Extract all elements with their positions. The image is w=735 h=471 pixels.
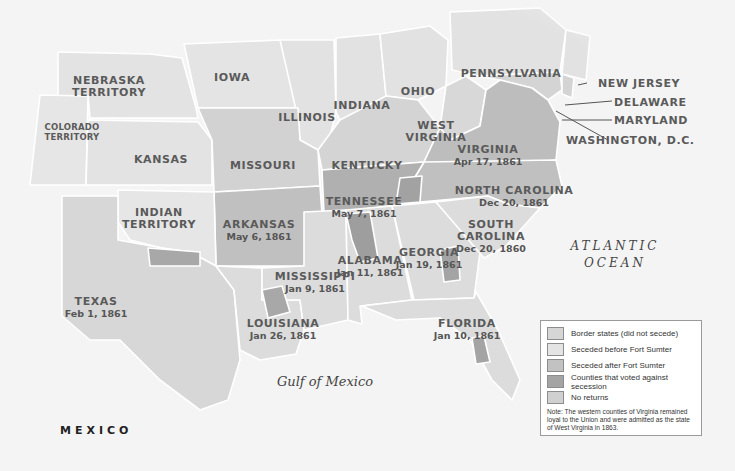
label-pennsylvania: PENNSYLVANIA <box>461 68 562 80</box>
label-text: TERRITORY <box>45 132 100 142</box>
legend-label: Seceded before Fort Sumter <box>571 345 672 354</box>
label-north-carolina: NORTH CAROLINADec 20, 1861 <box>455 185 574 209</box>
secession-date: Feb 1, 1861 <box>65 308 128 320</box>
state-name: MISSISSIPPI <box>275 270 356 283</box>
label-tennessee: TENNESSEEMay 7, 1861 <box>326 196 403 220</box>
label-virginia: VIRGINIAApr 17, 1861 <box>454 144 523 168</box>
state-name: FLORIDA <box>438 317 496 330</box>
legend-item-no-returns: No returns <box>547 390 695 405</box>
label-arkansas: ARKANSASMay 6, 1861 <box>223 219 295 243</box>
state-name: NORTH CAROLINA <box>455 184 574 197</box>
secession-date: Apr 17, 1861 <box>454 156 523 168</box>
label-texas: TEXASFeb 1, 1861 <box>65 296 128 320</box>
label-west-virginia: WESTVIRGINIA <box>406 120 467 144</box>
state-name: CAROLINA <box>457 230 525 243</box>
secession-date: Dec 20, 1860 <box>456 243 526 255</box>
legend-swatch <box>547 343 564 356</box>
state-name: ARKANSAS <box>223 218 295 231</box>
label-atlantic-ocean: ATLANTICOCEAN <box>570 238 659 272</box>
legend-item-seceded-before: Seceded before Fort Sumter <box>547 342 695 357</box>
label-new-jersey: NEW JERSEY <box>598 78 680 90</box>
map-legend: Border states (did not secede) Seceded b… <box>540 320 702 436</box>
label-kansas: KANSAS <box>134 154 188 166</box>
legend-label: Seceded after Fort Sumter <box>571 361 665 370</box>
label-mexico: MEXICO <box>60 424 132 437</box>
label-text: TERRITORY <box>122 218 196 231</box>
label-text: OCEAN <box>584 256 646 270</box>
label-indian-territory: INDIANTERRITORY <box>122 207 196 231</box>
label-mississippi: MISSISSIPPIJan 9, 1861 <box>275 271 356 295</box>
label-illinois: ILLINOIS <box>278 112 336 124</box>
state-name: GEORGIA <box>399 246 459 259</box>
secession-date: Jan 9, 1861 <box>275 283 356 295</box>
legend-item-seceded-after: Seceded after Fort Sumter <box>547 358 695 373</box>
legend-label: Border states (did not secede) <box>571 329 678 338</box>
label-delaware: DELAWARE <box>614 97 687 109</box>
label-text: ATLANTIC <box>570 239 659 253</box>
legend-item-border-states: Border states (did not secede) <box>547 326 695 341</box>
secession-date: Jan 19, 1861 <box>396 259 463 271</box>
label-nebraska: NEBRASKATERRITORY <box>72 75 146 99</box>
legend-label: Counties that voted against secession <box>571 373 695 391</box>
legend-swatch <box>547 391 564 404</box>
secession-date: Jan 10, 1861 <box>434 330 501 342</box>
secession-date: Dec 20, 1861 <box>455 197 574 209</box>
state-name: ALABAMA <box>338 254 403 267</box>
secession-date: May 6, 1861 <box>223 231 295 243</box>
legend-swatch <box>547 375 564 388</box>
secession-date: Jan 26, 1861 <box>247 330 320 342</box>
label-washington-dc: WASHINGTON, D.C. <box>566 135 695 147</box>
legend-label: No returns <box>571 393 608 402</box>
legend-swatch <box>547 327 564 340</box>
secession-date: May 7, 1861 <box>326 208 403 220</box>
label-colorado: COLORADOTERRITORY <box>45 122 100 142</box>
state-name: LOUISIANA <box>247 317 320 330</box>
label-south-carolina: SOUTHCAROLINADec 20, 1860 <box>456 219 526 255</box>
label-florida: FLORIDAJan 10, 1861 <box>434 318 501 342</box>
label-text: COLORADO <box>45 122 100 132</box>
label-louisiana: LOUISIANAJan 26, 1861 <box>247 318 320 342</box>
label-text: TERRITORY <box>72 86 146 99</box>
label-kentucky: KENTUCKY <box>331 160 402 172</box>
state-name: TENNESSEE <box>326 195 403 208</box>
legend-note: Note: The western counties of Virginia r… <box>547 408 695 432</box>
label-ohio: OHIO <box>401 86 435 98</box>
label-gulf-of-mexico: Gulf of Mexico <box>277 374 373 389</box>
legend-swatch <box>547 359 564 372</box>
state-name: TEXAS <box>75 295 118 308</box>
label-maryland: MARYLAND <box>614 115 688 127</box>
label-indiana: INDIANA <box>334 100 391 112</box>
legend-item-against-secession: Counties that voted against secession <box>547 374 695 389</box>
state-name: VIRGINIA <box>458 143 519 156</box>
label-iowa: IOWA <box>214 72 250 84</box>
label-missouri: MISSOURI <box>230 160 296 172</box>
label-georgia: GEORGIAJan 19, 1861 <box>396 247 463 271</box>
